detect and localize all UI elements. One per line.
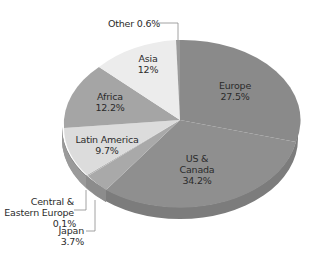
label-japan-name: Japan bbox=[52, 225, 84, 236]
label-europe-value: 27.5% bbox=[212, 91, 258, 102]
label-europe-name: Europe bbox=[212, 80, 258, 91]
label-africa-name: Africa bbox=[90, 91, 130, 102]
label-asia: Asia 12% bbox=[133, 53, 163, 75]
label-other: Other 0.6% bbox=[108, 18, 160, 29]
label-cee-name2: Eastern Europe bbox=[4, 207, 74, 218]
label-africa: Africa 12.2% bbox=[90, 91, 130, 113]
label-europe: Europe 27.5% bbox=[212, 80, 258, 102]
label-us-canada-value: 34.2% bbox=[174, 175, 220, 186]
label-us-canada: US & Canada 34.2% bbox=[174, 153, 220, 186]
label-latin-america-name: Latin America bbox=[72, 134, 142, 145]
label-us-canada-name1: US & bbox=[174, 153, 220, 164]
label-other-text: Other 0.6% bbox=[108, 18, 160, 29]
label-cee-name1: Central & bbox=[4, 196, 74, 207]
label-asia-name: Asia bbox=[133, 53, 163, 64]
label-us-canada-name2: Canada bbox=[174, 164, 220, 175]
label-japan: Japan 3.7% bbox=[52, 225, 84, 247]
label-latin-america-value: 9.7% bbox=[72, 145, 142, 156]
leader-line-japan bbox=[86, 200, 95, 231]
label-latin-america: Latin America 9.7% bbox=[72, 134, 142, 156]
label-asia-value: 12% bbox=[133, 64, 163, 75]
leader-line-other bbox=[157, 23, 178, 40]
label-africa-value: 12.2% bbox=[90, 102, 130, 113]
leader-line-central-eastern-europe bbox=[74, 190, 86, 210]
label-japan-value: 3.7% bbox=[52, 236, 84, 247]
